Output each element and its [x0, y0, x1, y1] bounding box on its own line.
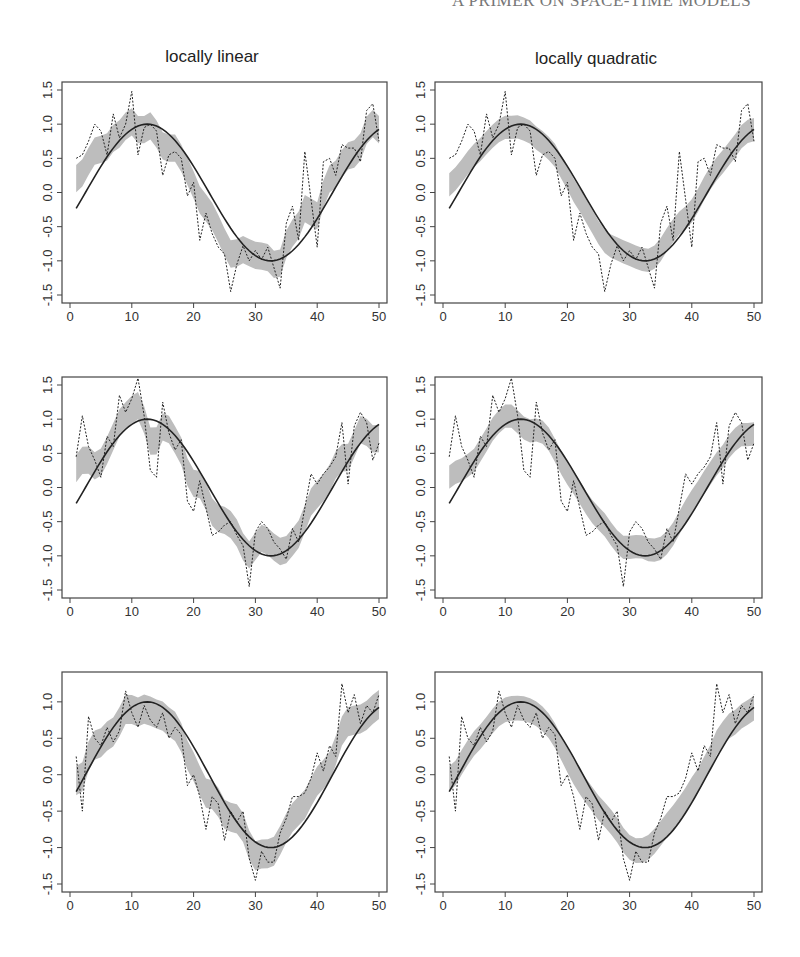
y-tick-label: 1.0 — [413, 693, 428, 711]
plot-frame — [62, 82, 387, 303]
y-tick-label: 0.5 — [40, 149, 55, 167]
plot-row3-locally-quadratic: 01020304050-1.5-1.0-0.50.00.51.0 — [413, 672, 762, 913]
y-tick-label: -1.0 — [413, 250, 428, 272]
y-tick-label: 1.0 — [40, 115, 55, 133]
y-tick-label: 1.5 — [413, 376, 428, 394]
x-tick-label: 40 — [310, 898, 324, 913]
x-tick-label: 0 — [66, 309, 73, 324]
y-tick-label: -1.0 — [413, 545, 428, 567]
plot-row1-locally-quadratic: 01020304050-1.5-1.0-0.50.00.51.01.5 — [413, 81, 762, 324]
confidence-band — [76, 392, 379, 569]
plot-row2-locally-linear: 01020304050-1.5-1.0-0.50.00.51.01.5 — [40, 376, 387, 619]
x-tick-label: 30 — [622, 604, 636, 619]
x-tick-label: 50 — [372, 898, 386, 913]
y-tick-label: 0.0 — [40, 766, 55, 784]
x-tick-label: 0 — [66, 898, 73, 913]
x-tick-label: 10 — [125, 604, 139, 619]
x-tick-label: 50 — [372, 309, 386, 324]
y-tick-label: 0.0 — [413, 766, 428, 784]
y-tick-label: 0.5 — [40, 444, 55, 462]
y-tick-label: 0.0 — [40, 183, 55, 201]
x-tick-label: 40 — [310, 309, 324, 324]
y-tick-label: -1.0 — [40, 250, 55, 272]
y-tick-label: -1.5 — [413, 579, 428, 601]
x-tick-label: 10 — [498, 309, 512, 324]
y-tick-label: -1.0 — [40, 545, 55, 567]
x-tick-label: 40 — [685, 898, 699, 913]
y-tick-label: 0.0 — [413, 183, 428, 201]
y-tick-label: 0.0 — [40, 478, 55, 496]
y-tick-label: 1.5 — [40, 81, 55, 99]
plot-frame — [435, 377, 762, 598]
plot-row1-locally-linear: 01020304050-1.5-1.0-0.50.00.51.01.501020… — [0, 0, 800, 957]
confidence-band — [449, 696, 754, 863]
plot-row3-locally-linear: 01020304050-1.5-1.0-0.50.00.51.0 — [40, 672, 387, 913]
y-tick-label: -0.5 — [40, 215, 55, 237]
y-tick-label: -0.5 — [413, 215, 428, 237]
x-tick-label: 40 — [685, 604, 699, 619]
x-tick-label: 30 — [248, 604, 262, 619]
plot-frame — [435, 82, 762, 303]
x-tick-label: 30 — [622, 309, 636, 324]
plot-frame — [62, 377, 387, 598]
y-tick-label: -1.5 — [413, 284, 428, 306]
y-tick-label: 1.5 — [413, 81, 428, 99]
y-tick-label: 1.0 — [40, 410, 55, 428]
x-tick-label: 20 — [186, 604, 200, 619]
x-tick-label: 20 — [186, 309, 200, 324]
x-tick-label: 0 — [439, 898, 446, 913]
y-tick-label: -1.5 — [40, 873, 55, 895]
y-tick-label: -1.0 — [413, 836, 428, 858]
x-tick-label: 50 — [747, 604, 761, 619]
x-tick-label: 40 — [310, 604, 324, 619]
y-tick-label: 0.5 — [40, 729, 55, 747]
plot-frame — [435, 672, 762, 892]
x-tick-label: 10 — [498, 604, 512, 619]
y-tick-label: -1.5 — [40, 579, 55, 601]
x-tick-label: 50 — [747, 309, 761, 324]
y-tick-label: 1.0 — [40, 693, 55, 711]
y-tick-label: -0.5 — [413, 800, 428, 822]
confidence-band — [449, 404, 754, 561]
x-tick-label: 0 — [439, 309, 446, 324]
y-tick-label: -0.5 — [40, 510, 55, 532]
x-tick-label: 20 — [186, 898, 200, 913]
x-tick-label: 10 — [498, 898, 512, 913]
y-tick-label: 1.0 — [413, 410, 428, 428]
x-tick-label: 30 — [248, 898, 262, 913]
plot-frame — [62, 672, 387, 892]
y-tick-label: 0.5 — [413, 444, 428, 462]
plot-row2-locally-quadratic: 01020304050-1.5-1.0-0.50.00.51.01.5 — [413, 376, 762, 619]
x-tick-label: 30 — [248, 309, 262, 324]
x-tick-label: 20 — [560, 604, 574, 619]
y-tick-label: 1.0 — [413, 115, 428, 133]
x-tick-label: 10 — [125, 309, 139, 324]
x-tick-label: 10 — [125, 898, 139, 913]
y-tick-label: -0.5 — [413, 510, 428, 532]
x-tick-label: 20 — [560, 309, 574, 324]
y-tick-label: 0.0 — [413, 478, 428, 496]
plot-row1-locally-linear: 01020304050-1.5-1.0-0.50.00.51.01.5 — [40, 81, 387, 324]
x-tick-label: 50 — [372, 604, 386, 619]
x-tick-label: 0 — [66, 604, 73, 619]
y-tick-label: -1.0 — [40, 836, 55, 858]
x-tick-label: 40 — [685, 309, 699, 324]
x-tick-label: 0 — [439, 604, 446, 619]
y-tick-label: 0.5 — [413, 729, 428, 747]
y-tick-label: 1.5 — [40, 376, 55, 394]
x-tick-label: 20 — [560, 898, 574, 913]
x-tick-label: 30 — [622, 898, 636, 913]
y-tick-label: -1.5 — [40, 284, 55, 306]
y-tick-label: -0.5 — [40, 800, 55, 822]
x-tick-label: 50 — [747, 898, 761, 913]
y-tick-label: 0.5 — [413, 149, 428, 167]
y-tick-label: -1.5 — [413, 873, 428, 895]
